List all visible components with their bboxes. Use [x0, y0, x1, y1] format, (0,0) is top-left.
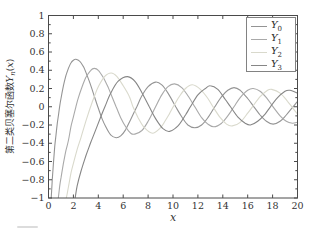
x-tick-label: 4: [95, 200, 101, 211]
x-tick-label: 18: [267, 200, 279, 211]
y-tick-label: 1: [38, 10, 44, 21]
y-axis-subscript: n: [9, 71, 17, 76]
legend-label-y3: Y3: [271, 59, 282, 73]
x-tick-label: 14: [217, 200, 229, 211]
y-tick-label: 0.2: [29, 83, 44, 94]
y-axis-label-text: 第二类贝塞尔函数: [5, 82, 15, 154]
y-tick-label: −0.8: [21, 174, 44, 185]
legend-line-sample-y3: [251, 65, 267, 67]
x-tick-label: 2: [70, 200, 76, 211]
y-axis-label: 第二类贝塞尔函数Yn(x): [2, 12, 17, 202]
curve-Y2: [66, 73, 297, 198]
x-tick-label: 10: [167, 200, 179, 211]
x-tick-label: 20: [291, 200, 303, 211]
caption-remnant: [17, 226, 38, 228]
y-axis-symbol: Y: [4, 76, 15, 83]
x-tick-label: 0: [45, 200, 51, 211]
legend-entry-y3: Y3: [251, 59, 295, 72]
y-tick-label: −0.4: [21, 137, 44, 148]
x-tick-label: 8: [145, 200, 151, 211]
y-tick-label: 0: [38, 101, 44, 112]
y-tick-label: −1: [30, 192, 44, 203]
y-tick-label: 0.8: [29, 28, 44, 39]
legend-line-sample-y2: [251, 52, 267, 54]
bessel-second-kind-figure: 02468101214161820−1−0.8−0.6−0.4−0.200.20…: [0, 0, 309, 233]
x-tick-label: 12: [192, 200, 204, 211]
x-tick-label: 6: [120, 200, 126, 211]
legend-box: Y0 Y1 Y2 Y3: [246, 17, 296, 72]
legend-line-sample-y0: [251, 26, 267, 28]
x-axis-label: x: [164, 211, 182, 224]
y-tick-label: 0.4: [29, 64, 44, 75]
legend-line-sample-y1: [251, 39, 267, 41]
y-tick-label: −0.2: [21, 119, 44, 130]
x-tick-label: 16: [242, 200, 254, 211]
y-tick-label: 0.6: [29, 46, 44, 57]
y-tick-label: −0.6: [21, 156, 44, 167]
